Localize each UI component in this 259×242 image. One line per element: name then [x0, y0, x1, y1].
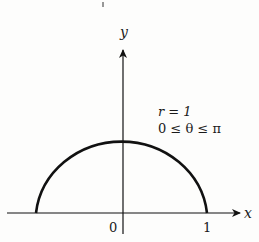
diagram-svg: y x 0 1 r = 1 0 ≤ θ ≤ π	[0, 0, 259, 242]
polar-semicircle-figure: y x 0 1 r = 1 0 ≤ θ ≤ π	[0, 0, 259, 242]
x-axis-label: x	[244, 205, 252, 221]
x-tick-label-1: 1	[203, 220, 211, 235]
origin-label: 0	[109, 220, 117, 235]
curve-equation-label: r = 1	[158, 104, 192, 119]
curve-domain-label: 0 ≤ θ ≤ π	[158, 121, 221, 136]
y-axis-label: y	[119, 24, 129, 40]
semicircle-curve	[36, 142, 207, 213]
